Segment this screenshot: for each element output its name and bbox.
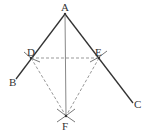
- label-f: F: [62, 120, 68, 132]
- label-e: E: [95, 46, 102, 58]
- bisector-af: [65, 14, 66, 116]
- dashed-ef: [66, 58, 99, 116]
- point-a: [64, 13, 66, 15]
- label-c: C: [134, 98, 141, 110]
- point-f: [65, 115, 67, 117]
- label-d: D: [27, 46, 35, 58]
- ray-ab: [16, 14, 65, 79]
- dashed-df: [31, 58, 66, 116]
- label-a: A: [61, 1, 69, 13]
- angle-bisector-diagram: A B C D E F: [0, 0, 147, 135]
- label-b: B: [9, 76, 16, 88]
